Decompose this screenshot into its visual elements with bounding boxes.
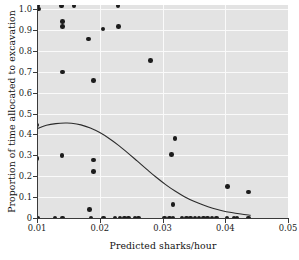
y-tick-mark [33,30,37,31]
data-point [246,190,251,195]
y-tick-mark [33,155,37,156]
x-tick-label: 0.05 [268,224,299,232]
y-tick-mark [33,9,37,10]
y-tick-mark [33,51,37,52]
fitted-curve [37,5,288,218]
y-tick-mark [33,93,37,94]
y-tick-mark [33,134,37,135]
data-point [91,78,96,83]
data-point [225,184,230,189]
data-point [60,24,65,29]
data-point [173,136,178,141]
x-tick-label: 0.02 [80,224,120,232]
data-point [86,37,91,42]
data-point [60,70,65,75]
y-tick-mark [33,72,37,73]
y-tick-mark [33,176,37,177]
x-tick-label: 0.01 [17,224,57,232]
y-tick-mark [33,197,37,198]
x-tick-label: 0.04 [205,224,245,232]
scatter-plot-figure: 00.10.20.30.40.50.60.70.80.91.0 0.010.02… [0,0,299,260]
data-point [91,169,96,174]
y-axis-line [37,5,38,219]
y-tick-mark [33,114,37,115]
data-point [87,207,92,212]
data-point [91,158,96,163]
plot-panel [37,5,288,218]
y-axis-title: Proportion of time allocated to excavati… [6,7,17,217]
x-tick-label: 0.03 [143,224,183,232]
data-point [169,152,174,157]
data-point [148,58,153,63]
data-point [116,24,121,29]
data-point [60,153,65,158]
x-axis-title: Predicted sharks/hour [37,240,289,251]
